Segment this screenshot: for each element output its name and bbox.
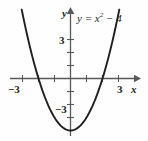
equation-annotation: y = x2 − 4	[77, 12, 122, 24]
equation-remainder: − 4	[106, 12, 122, 24]
x-axis-name-label: x	[131, 84, 137, 95]
equation-eq-sign: =	[85, 12, 92, 24]
x-axis-arrow-icon	[134, 75, 141, 82]
y-axis-name-label: y	[62, 8, 67, 19]
y-axis-arrow-icon	[67, 7, 74, 14]
x-axis-tick-label-3: 3	[117, 84, 123, 95]
x-axis-tick-label-neg3: −3	[8, 84, 20, 95]
graph-canvas	[0, 0, 148, 141]
parabola-figure: 3 −3 −3 3 y x y = x2 − 4	[0, 0, 148, 141]
y-axis-tick-label-neg3: −3	[55, 104, 67, 115]
y-axis-tick-label-3: 3	[59, 35, 65, 46]
